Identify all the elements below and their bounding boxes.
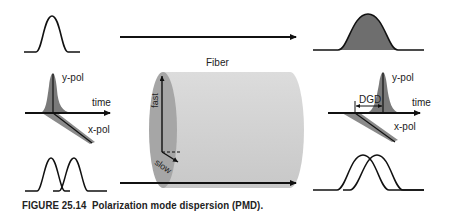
fiber-label: Fiber <box>206 58 229 68</box>
figure-number: FIGURE 25.14 <box>22 199 86 211</box>
output-pulses-bottom-separated <box>313 155 424 190</box>
pmd-diagram <box>0 0 474 216</box>
output-y-pol-label: y-pol <box>392 73 414 83</box>
dgd-label: DGD <box>359 95 381 105</box>
figure-caption: FIGURE 25.14Polarization mode dispersion… <box>22 199 263 211</box>
output-time-label: time <box>412 98 431 108</box>
input-y-pol-label: y-pol <box>62 73 84 83</box>
fast-axis-label: fast <box>151 93 160 108</box>
caption-text: Polarization mode dispersion (PMD). <box>92 199 263 211</box>
input-pulses-bottom <box>25 158 107 191</box>
output-x-pol-label: x-pol <box>394 122 416 132</box>
input-time-label: time <box>92 98 111 108</box>
output-pulse-top-broadened <box>313 14 424 50</box>
fiber-cylinder <box>149 72 304 188</box>
input-pulse-top <box>24 16 80 52</box>
input-x-pol-label: x-pol <box>88 125 110 135</box>
